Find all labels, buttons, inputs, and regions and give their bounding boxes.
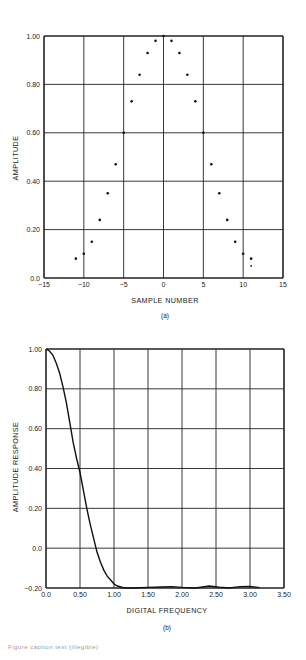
data-point [242, 253, 245, 256]
x-tick-label: 0.0 [41, 591, 51, 598]
y-tick-label: −0.20 [24, 585, 42, 592]
data-point [122, 132, 125, 135]
x-tick-label: 3.50 [277, 591, 291, 598]
y-tick-label: 0.20 [26, 226, 40, 233]
chart-a-y-axis-label: AMPLITUDE [11, 136, 20, 181]
data-point [138, 73, 141, 76]
data-point [91, 240, 94, 243]
x-tick-label: 10 [239, 281, 247, 288]
chart-a-y-ticks: 0.00.200.400.600.801.00 [26, 33, 40, 282]
data-point [194, 100, 197, 103]
data-point [202, 132, 205, 135]
chart-sample-amplitude: 0.00.200.400.600.801.00 −15−10−5051015 S… [0, 0, 306, 330]
data-point [162, 35, 165, 38]
y-tick-label: 1.00 [26, 33, 40, 40]
data-point [218, 192, 221, 195]
x-tick-label: 15 [279, 281, 287, 288]
figure-caption: Figure caption text (illegible) [8, 644, 306, 652]
x-tick-label: −15 [38, 281, 50, 288]
x-tick-label: −5 [120, 281, 128, 288]
x-tick-label: 0.50 [73, 591, 87, 598]
y-tick-label: 0.40 [26, 178, 40, 185]
x-tick-label: 1.50 [141, 591, 155, 598]
data-point [250, 257, 253, 260]
x-tick-label: 2.50 [209, 591, 223, 598]
data-point [154, 40, 157, 43]
x-tick-label: 1.00 [107, 591, 121, 598]
chart-b-sublabel: (b) [163, 624, 171, 632]
data-point [234, 240, 237, 243]
x-tick-label: 3.00 [243, 591, 257, 598]
data-point [130, 100, 133, 103]
chart-a-x-ticks: −15−10−5051015 [38, 281, 287, 288]
data-point [186, 73, 189, 76]
data-point [250, 265, 252, 267]
y-tick-label: 0.60 [26, 129, 40, 136]
x-tick-label: −10 [78, 281, 90, 288]
data-point [98, 219, 101, 222]
chart-b-x-ticks: 0.00.501.001.502.002.503.003.50 [41, 591, 291, 598]
chart-a-x-axis-label: SAMPLE NUMBER [131, 296, 199, 305]
y-tick-label: 0.80 [26, 81, 40, 88]
chart-a-svg: 0.00.200.400.600.801.00 −15−10−5051015 S… [0, 0, 306, 330]
data-point [83, 253, 86, 256]
y-tick-label: 0.60 [28, 425, 42, 432]
data-point [146, 52, 149, 55]
chart-b-y-axis-label: AMPLITUDE RESPONSE [11, 422, 20, 512]
y-tick-label: 0.40 [28, 465, 42, 472]
data-point [75, 257, 78, 260]
data-point [170, 40, 173, 43]
data-point [226, 219, 229, 222]
y-tick-label: 0.80 [28, 385, 42, 392]
chart-a-sublabel: (a) [161, 312, 169, 320]
x-tick-label: 5 [201, 281, 205, 288]
data-point [114, 163, 117, 166]
data-point [106, 192, 109, 195]
y-tick-label: 0.0 [32, 545, 42, 552]
chart-b-y-ticks: −0.200.00.200.400.600.801.00 [24, 346, 42, 592]
data-point [178, 52, 181, 55]
chart-b-svg: −0.200.00.200.400.600.801.00 0.00.501.00… [0, 330, 306, 660]
data-point [210, 163, 213, 166]
chart-b-x-axis-label: DIGITAL FREQUENCY [126, 606, 207, 615]
x-tick-label: 0 [162, 281, 166, 288]
chart-b-grid [46, 349, 284, 588]
y-tick-label: 1.00 [28, 346, 42, 353]
x-tick-label: 2.00 [175, 591, 189, 598]
chart-amplitude-response: −0.200.00.200.400.600.801.00 0.00.501.00… [0, 330, 306, 660]
chart-a-grid [44, 36, 283, 278]
y-tick-label: 0.20 [28, 505, 42, 512]
